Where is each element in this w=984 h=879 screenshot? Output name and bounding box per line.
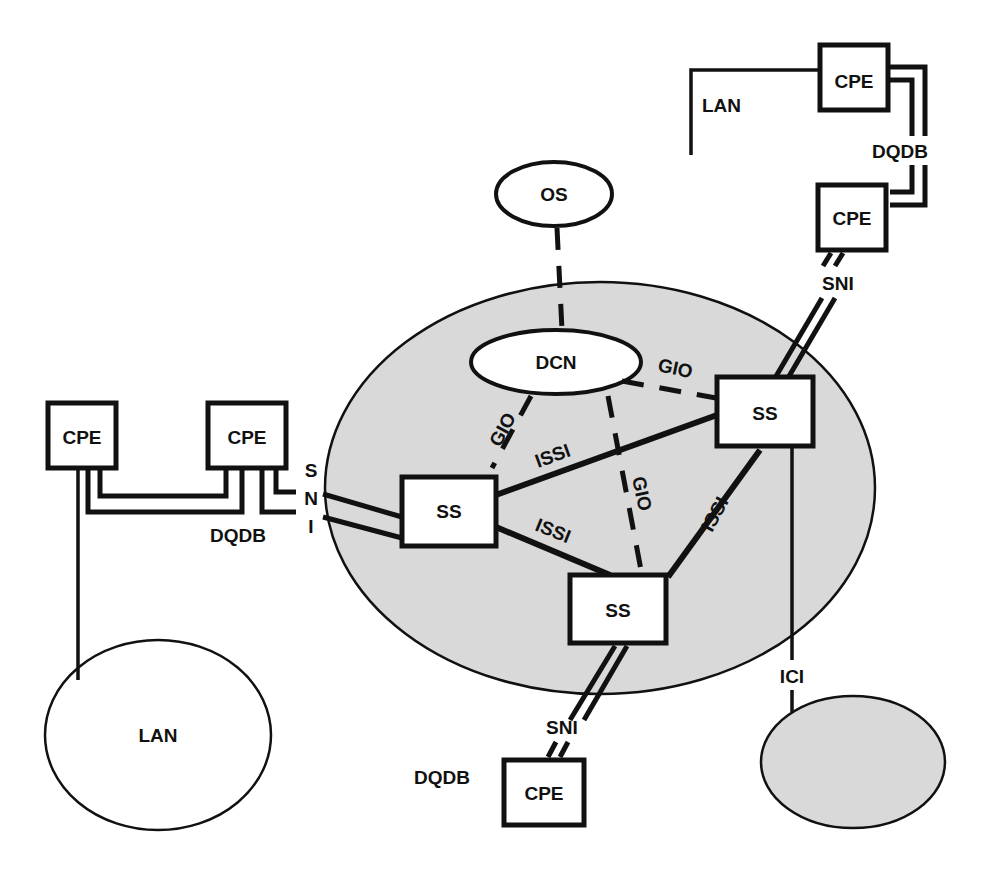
cpe-top-1-label: CPE [834, 71, 873, 92]
ss-left-label: SS [436, 501, 461, 522]
os-label: OS [540, 184, 567, 205]
sni-left-i-label: I [308, 516, 313, 537]
cpe-left-1-label: CPE [62, 427, 101, 448]
lan-top-label: LAN [702, 95, 741, 116]
ss-right-label: SS [752, 403, 777, 424]
sni-top-line-b [835, 253, 843, 266]
cpe-left-2-label: CPE [227, 427, 266, 448]
dqdb-bus-top-outer [890, 67, 925, 205]
sni-top-label: SNI [822, 273, 854, 294]
dqdb-bus-top-inner [890, 80, 912, 192]
sni-bottom-label: SNI [546, 717, 578, 738]
sni-left-s-label: S [305, 460, 318, 481]
sni-bottom-line-d [560, 742, 568, 757]
dqdb-top-label: DQDB [872, 141, 928, 162]
dcn-label: DCN [535, 352, 576, 373]
network-diagram: LAN LAN DQDB CPE CPE SNI OS DCN GIO GIO … [0, 0, 984, 879]
dqdb-bus-left-outer [88, 470, 242, 512]
lan-oval-label: LAN [138, 725, 177, 746]
ici-label: ICI [780, 666, 804, 687]
dqdb-bus-left-inner [100, 470, 226, 496]
sni-left-stub-a [276, 470, 296, 492]
sni-bottom-line-c [548, 742, 556, 757]
ss-bottom-label: SS [605, 600, 630, 621]
other-network-cloud [761, 696, 945, 828]
sni-top-line-a [823, 253, 831, 266]
sni-left-n-label: N [304, 488, 318, 509]
cpe-top-2-label: CPE [832, 208, 871, 229]
dqdb-left-label: DQDB [210, 525, 266, 546]
cpe-bottom-label: CPE [524, 783, 563, 804]
dqdb-bottom-label: DQDB [414, 767, 470, 788]
